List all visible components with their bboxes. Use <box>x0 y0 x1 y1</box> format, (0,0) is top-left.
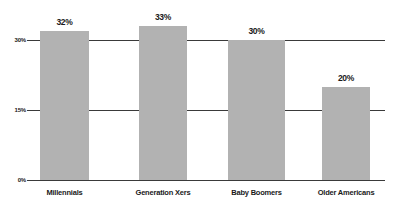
category-label-generation-xers: Generation Xers <box>120 188 206 197</box>
tick-mark-0 <box>27 180 33 181</box>
bar-chart: 30% 15% 0% 32% Millennials 33% Generatio… <box>0 0 394 211</box>
category-label-baby-boomers: Baby Boomers <box>217 188 296 197</box>
category-label-millennials: Millennials <box>25 188 104 197</box>
bar-millennials[interactable] <box>40 31 89 180</box>
bar-value-generation-xers: 33% <box>139 12 187 22</box>
bar-generation-xers[interactable] <box>139 26 187 180</box>
axis-baseline <box>33 180 385 181</box>
bar-value-baby-boomers: 30% <box>228 26 285 36</box>
bar-baby-boomers[interactable] <box>228 40 285 180</box>
bar-value-millennials: 32% <box>40 17 89 27</box>
bar-value-older-americans: 20% <box>322 73 370 83</box>
y-axis-tick-label-0: 0% <box>2 177 26 184</box>
tick-mark-15 <box>27 110 33 111</box>
bar-older-americans[interactable] <box>322 87 370 180</box>
tick-mark-30 <box>27 40 33 41</box>
category-label-older-americans: Older Americans <box>303 188 389 197</box>
y-axis-tick-label-15: 15% <box>2 107 26 114</box>
y-axis-tick-label-30: 30% <box>2 37 26 44</box>
